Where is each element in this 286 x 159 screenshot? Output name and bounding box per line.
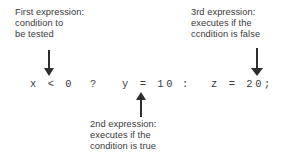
code-token-condition: x < 0 (30, 78, 74, 90)
code-token-true-branch: y = 10 (122, 78, 175, 90)
arrow-head (44, 68, 54, 76)
annotation-first-expression: First expression: condition to be tested (15, 7, 84, 41)
annotation-first-line-3: be tested (15, 29, 84, 40)
annotation-first-line-1: First expression: (15, 7, 84, 18)
annotation-third-line-1: 3rd expression: (191, 7, 260, 18)
annotation-third-line-2: executes if the (191, 18, 260, 29)
annotation-third-expression: 3rd expression: executes if the ccnditio… (191, 7, 260, 41)
annotation-second-expression: 2nd expression: executes if the conditio… (90, 119, 156, 153)
ternary-operator-diagram: First expression: condition to be tested… (0, 0, 286, 159)
annotation-second-line-3: condition is true (90, 141, 156, 152)
arrow-head (251, 68, 263, 76)
code-expression-line: x < 0 ? y = 10 : z = 20; (0, 78, 286, 94)
annotation-second-line-2: executes if the (90, 130, 156, 141)
arrow-up-to-true-branch-icon (135, 92, 147, 117)
arrow-down-to-false-branch-icon (250, 48, 264, 76)
arrow-down-to-condition-icon (43, 50, 55, 76)
arrow-shaft (256, 48, 258, 68)
code-token-colon: : (182, 78, 191, 90)
arrow-shaft (48, 50, 50, 68)
arrow-shaft (140, 100, 142, 117)
code-token-false-branch: z = 20; (211, 78, 273, 90)
annotation-first-line-2: condition to (15, 18, 84, 29)
annotation-third-line-3: ccndition is false (191, 29, 260, 40)
code-token-question: ? (90, 78, 99, 90)
annotation-second-line-1: 2nd expression: (90, 119, 156, 130)
